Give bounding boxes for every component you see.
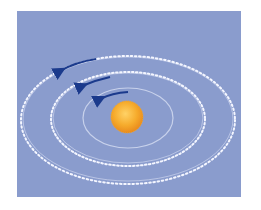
- solar-orbits-diagram: [0, 0, 261, 210]
- arrow-icon-outer: [60, 59, 96, 71]
- arrow-icon-middle: [82, 77, 110, 86]
- sun-icon: [111, 101, 143, 133]
